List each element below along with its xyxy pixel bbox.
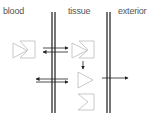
blood-tissue-membrane: [52, 12, 55, 113]
blood-complex-shape: [13, 41, 35, 58]
tissue-receptor-shape: [78, 94, 94, 110]
tissue-complex-shape: [72, 41, 94, 58]
tissue-exterior-membrane: [107, 12, 110, 113]
transport-diagram: [0, 0, 156, 119]
tissue-free-triangle: [78, 72, 93, 88]
